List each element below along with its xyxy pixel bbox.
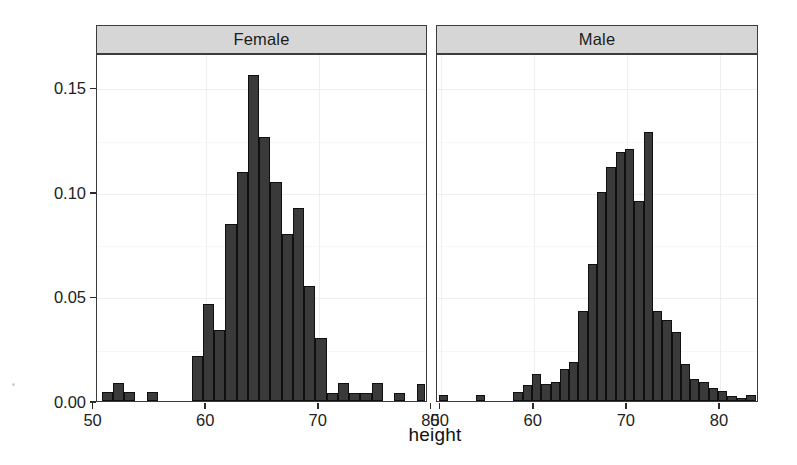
facet-strip-label: Male: [579, 30, 616, 49]
y-tick-label: 0.15: [34, 79, 86, 98]
x-tick-label: 50: [431, 411, 449, 430]
histogram-bar: [248, 75, 259, 401]
histogram-bar: [293, 208, 304, 401]
facet-strip-label: Female: [233, 30, 289, 49]
histogram-bar: [113, 383, 124, 401]
histogram-bar: [672, 332, 681, 401]
histogram-bar: [439, 395, 448, 401]
histogram-bar: [634, 201, 643, 401]
histogram-bar: [417, 384, 425, 401]
x-tick-mark: [430, 403, 432, 409]
histogram-bar: [727, 396, 736, 401]
histogram-bar: [569, 362, 578, 401]
histogram-bar: [476, 395, 485, 401]
x-tick-mark: [317, 403, 319, 409]
gridline-horizontal: [97, 89, 426, 90]
histogram-bar: [737, 398, 746, 401]
histogram-bar: [588, 264, 597, 401]
histogram-bar: [270, 182, 281, 401]
histogram-bar: [625, 149, 634, 401]
histogram-bar: [653, 311, 662, 401]
histogram-bar: [259, 137, 270, 401]
histogram-bar: [214, 330, 225, 401]
x-tick-mark: [532, 403, 534, 409]
y-tick-label: 0.10: [34, 184, 86, 203]
plot-area-female: [96, 54, 427, 402]
faceted-histogram-figure: density height 0.000.050.100.15 Female50…: [0, 0, 797, 465]
histogram-bar: [372, 383, 383, 401]
gridline-horizontal-minor: [437, 142, 757, 143]
histogram-bar: [699, 382, 708, 401]
plot-area-male: [436, 54, 758, 402]
histogram-bar: [147, 392, 158, 401]
histogram-bar: [513, 392, 522, 401]
facet-strip-male: Male: [436, 25, 758, 54]
x-tick-label: 60: [524, 411, 542, 430]
histogram-bar: [606, 167, 615, 401]
gridline-vertical: [534, 55, 535, 401]
x-tick-mark: [204, 403, 206, 409]
gridline-vertical: [441, 55, 442, 401]
histogram-bar: [360, 393, 371, 401]
x-tick-label: 80: [710, 411, 728, 430]
histogram-bar: [225, 224, 236, 401]
histogram-bar: [578, 311, 587, 401]
histogram-bar: [282, 234, 293, 401]
histogram-bar: [192, 356, 203, 401]
speck-artifact: [12, 383, 15, 386]
histogram-bar: [644, 132, 653, 401]
x-tick-mark: [625, 403, 627, 409]
histogram-bar: [394, 393, 405, 401]
histogram-bar: [124, 392, 135, 401]
x-tick-label: 50: [83, 411, 101, 430]
histogram-bar: [338, 383, 349, 401]
gridline-horizontal: [437, 89, 757, 90]
histogram-bar: [718, 391, 727, 401]
facet-strip-female: Female: [96, 25, 427, 54]
histogram-bar: [102, 392, 113, 401]
histogram-bar: [681, 364, 690, 401]
histogram-bar: [662, 320, 671, 402]
histogram-bar: [746, 395, 756, 401]
histogram-bar: [203, 304, 214, 401]
gridline-vertical: [720, 55, 721, 401]
histogram-bar: [690, 379, 699, 401]
y-tick-label: 0.00: [34, 393, 86, 412]
histogram-bar: [560, 369, 569, 401]
x-tick-label: 70: [309, 411, 327, 430]
x-tick-label: 70: [617, 411, 635, 430]
histogram-bar: [532, 374, 541, 401]
x-tick-mark: [92, 403, 94, 409]
histogram-bar: [541, 384, 550, 401]
histogram-bar: [304, 286, 315, 401]
histogram-bar: [597, 192, 606, 401]
histogram-bar: [523, 385, 532, 401]
x-tick-mark: [439, 403, 441, 409]
histogram-bar: [709, 388, 718, 401]
y-tick-label: 0.05: [34, 288, 86, 307]
x-tick-mark: [718, 403, 720, 409]
histogram-bar: [349, 393, 360, 401]
histogram-bar: [237, 172, 248, 401]
histogram-bar: [551, 382, 560, 401]
histogram-bar: [327, 393, 338, 401]
histogram-bar: [315, 338, 326, 401]
x-tick-label: 60: [196, 411, 214, 430]
histogram-bar: [616, 152, 625, 401]
